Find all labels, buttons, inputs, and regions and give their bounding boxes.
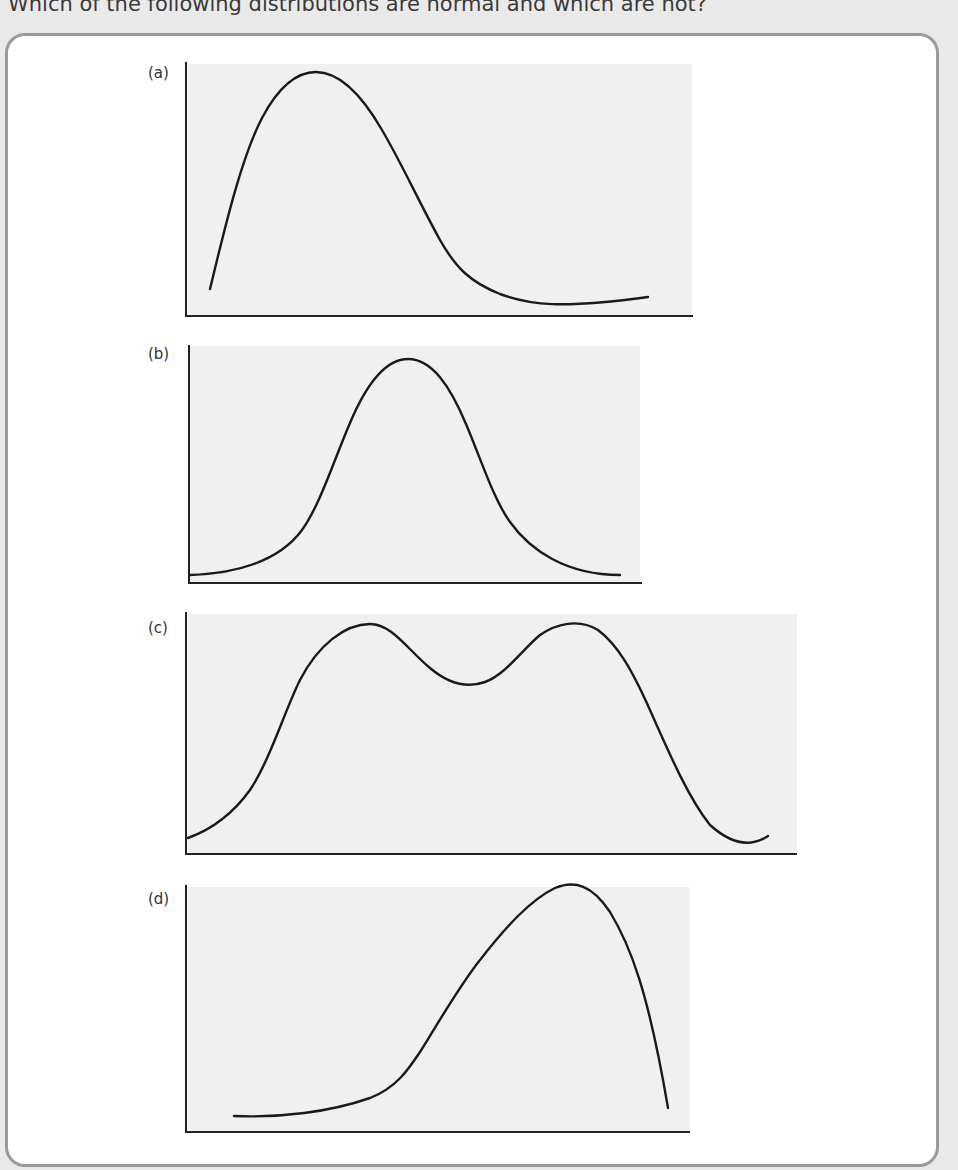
x-axis-d xyxy=(185,1131,690,1133)
curve-d xyxy=(0,0,958,1170)
